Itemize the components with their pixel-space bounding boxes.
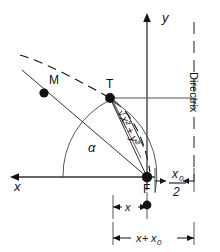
dim-total-plus: + xyxy=(142,232,148,244)
dim-total-arrowhead-right xyxy=(187,235,194,241)
dim-x0-half-group: x 0 2 xyxy=(169,167,186,199)
dim-total-subscript: 0 xyxy=(157,238,162,247)
dim-x0-subscript: 0 xyxy=(179,174,184,183)
point-t-dot xyxy=(105,93,115,103)
angle-alpha-label: α xyxy=(88,140,96,155)
point-f-dot xyxy=(142,172,152,182)
point-m-label: M xyxy=(49,73,59,87)
point-m-dot xyxy=(39,88,48,97)
dim-total-first: x xyxy=(135,232,142,244)
dim-x0-denominator: 2 xyxy=(172,185,180,199)
directrix-label: Directrix xyxy=(188,72,200,113)
y-axis-label: y xyxy=(161,10,170,25)
dim-x-arrowhead-left xyxy=(113,204,120,210)
point-d-dot xyxy=(143,201,152,210)
point-f-label: F xyxy=(143,182,150,196)
radius-expression-group: √ x² + y² xyxy=(115,108,145,152)
dim-total-arrowhead-left xyxy=(113,235,120,241)
y-axis-arrowhead xyxy=(143,13,151,22)
x-axis-label: x xyxy=(13,179,21,194)
dim-total-second: x xyxy=(150,232,157,244)
point-t-label: T xyxy=(106,77,114,91)
dim-x0-numerator: x xyxy=(171,167,179,181)
radius-expression: x² + y² xyxy=(118,113,143,147)
dim-x-label: x xyxy=(124,201,131,213)
dim-x0-arrowhead-left xyxy=(160,178,166,184)
conic-geometry-figure: y x M T F α Directrix √ x² + y² x x 0 2 … xyxy=(0,0,220,252)
